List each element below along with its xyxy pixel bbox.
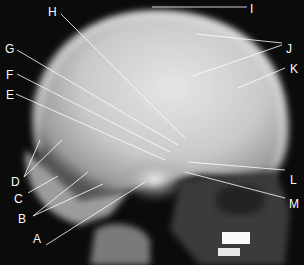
label-i: I xyxy=(250,3,253,15)
xray-image xyxy=(0,0,304,275)
label-a: A xyxy=(33,233,41,245)
bottom-border xyxy=(0,265,304,275)
label-d: D xyxy=(11,176,20,188)
skull-xray-figure: A B C D E F G H I J K L M xyxy=(0,0,304,275)
label-f: F xyxy=(6,69,13,81)
label-c: C xyxy=(14,193,23,205)
label-k: K xyxy=(290,63,298,75)
label-l: L xyxy=(290,174,297,186)
label-e: E xyxy=(6,89,14,101)
label-g: G xyxy=(5,43,14,55)
label-m: M xyxy=(289,198,299,210)
label-j: J xyxy=(286,43,292,55)
label-b: B xyxy=(18,213,26,225)
label-h: H xyxy=(48,6,57,18)
